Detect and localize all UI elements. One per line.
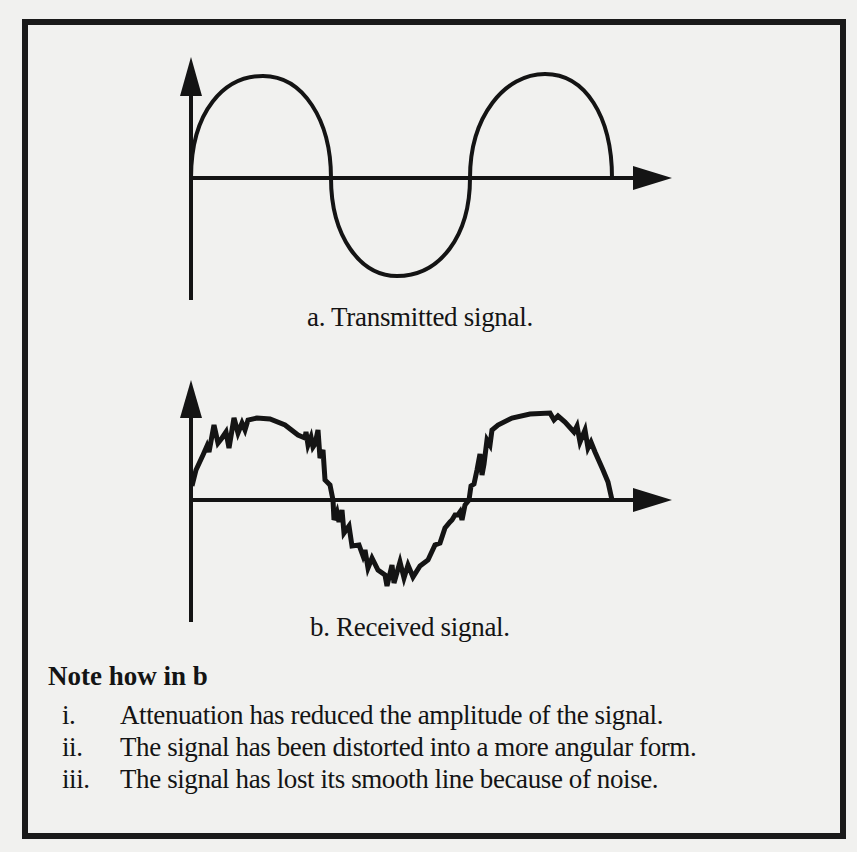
note-item-text: Attenuation has reduced the amplitude of… <box>120 700 663 731</box>
note-item-text: The signal has lost its smooth line beca… <box>120 764 658 795</box>
note-item-text: The signal has been distorted into a mor… <box>120 732 696 763</box>
caption-transmitted-signal: a. Transmitted signal. <box>307 302 533 333</box>
received-signal-diagram <box>180 380 672 622</box>
x-axis-arrow-icon <box>633 166 672 190</box>
note-item-number: iii. <box>62 764 112 795</box>
note-item-number: ii. <box>62 732 112 763</box>
y-axis-arrow-icon <box>180 380 202 418</box>
transmitted-sine-wave <box>191 74 612 276</box>
note-heading: Note how in b <box>48 661 208 692</box>
transmitted-signal-diagram <box>180 57 672 300</box>
caption-received-signal: b. Received signal. <box>310 612 510 643</box>
note-item-number: i. <box>62 700 112 731</box>
y-axis-arrow-icon <box>180 57 202 96</box>
x-axis-arrow-icon <box>633 488 672 512</box>
